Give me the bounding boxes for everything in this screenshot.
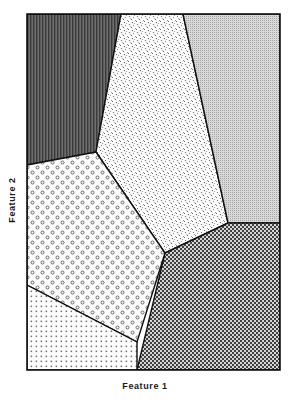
x-axis-label: Feature 1 — [0, 381, 290, 391]
y-axis-label: Feature 2 — [7, 162, 17, 238]
voronoi-plot — [0, 0, 290, 403]
figure-container: Feature 1 Feature 2 — [0, 0, 290, 403]
region-group — [27, 14, 280, 370]
